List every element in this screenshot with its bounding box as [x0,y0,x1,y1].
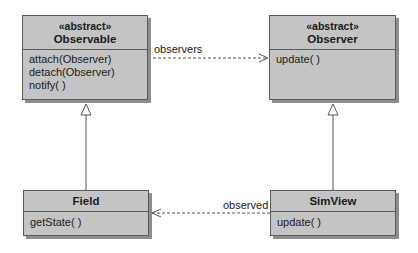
operations: getState( ) [24,212,148,229]
class-name: Field [24,194,148,208]
operation: update( ) [276,53,395,66]
generalization-triangle-icon [328,104,338,115]
generalization-triangle-icon [81,104,91,115]
class-simview[interactable]: SimView update( ) [270,190,396,236]
observed-label: observed [223,199,268,211]
class-header: Field [24,191,148,212]
stereotype: «abstract» [23,20,147,32]
class-name: SimView [271,194,395,208]
operation: detach(Observer) [29,66,147,79]
operation: attach(Observer) [29,53,147,66]
class-observer[interactable]: «abstract» Observer update( ) [269,15,396,100]
class-observable[interactable]: «abstract» Observable attach(Observer) d… [22,15,148,100]
class-header: SimView [271,191,395,212]
operation: update( ) [277,216,395,229]
operations: attach(Observer) detach(Observer) notify… [23,50,147,92]
operations: update( ) [271,212,395,229]
class-field[interactable]: Field getState( ) [23,190,149,236]
operation: getState( ) [30,216,148,229]
class-header: «abstract» Observer [270,16,395,50]
class-header: «abstract» Observable [23,16,147,50]
operation: notify( ) [29,79,147,92]
operations: update( ) [270,50,395,66]
class-name: Observable [23,32,147,46]
class-name: Observer [270,32,395,46]
stereotype: «abstract» [270,20,395,32]
observers-label: observers [154,43,202,55]
